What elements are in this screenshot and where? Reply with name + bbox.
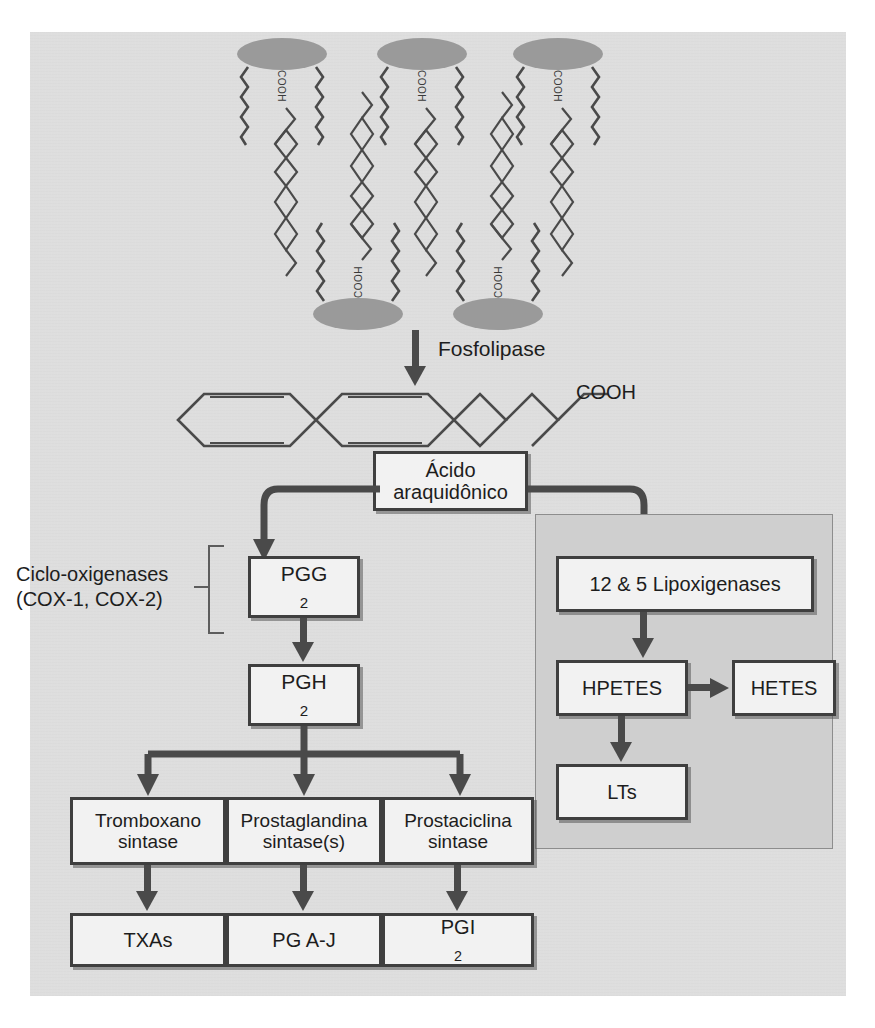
lox-to-hpetes-head: [632, 638, 654, 658]
arachidonic-acid-molecule: [150, 382, 620, 452]
phospholipase-label: Fosfolipase: [438, 336, 545, 362]
node-arachidonic-acid[interactable]: Ácido araquidônico: [373, 451, 528, 511]
prostacyclin-product-head: [446, 891, 468, 911]
arachidonic-acid-line2: araquidônico: [393, 481, 508, 503]
cyclooxygenase-label-line1: Ciclo-oxigenases: [16, 562, 168, 587]
node-lts[interactable]: LTs: [556, 764, 688, 820]
node-txas[interactable]: TXAs: [70, 913, 226, 967]
hpetes-to-lts-head: [610, 742, 632, 762]
pgg2-subscript: 2: [300, 594, 308, 611]
cyclooxygenase-bracket: [208, 545, 224, 634]
hpetes-to-hetes-stem: [688, 684, 712, 691]
phospholipid-membrane: COOH: [30, 32, 846, 372]
node-prostaglandin-synthase[interactable]: Prostaglandina sintase(s): [226, 797, 382, 865]
hpetes-label: HPETES: [582, 677, 662, 699]
thromboxane-line1: Tromboxano: [95, 810, 201, 831]
arachidonic-acid-cooh-label: COOH: [576, 380, 636, 405]
cyclooxygenase-bracket-tick: [194, 586, 210, 588]
prostaglandin-line2: sintase(s): [241, 831, 368, 852]
pgi2-text: PGI: [441, 916, 475, 938]
pgg2-to-pgh2-head: [292, 642, 314, 662]
node-pgi2[interactable]: PGI2: [382, 913, 534, 967]
prostaglandin-product-head: [292, 891, 314, 911]
hpetes-to-lts-stem: [618, 716, 625, 744]
prostacyclin-product-stem: [454, 865, 461, 893]
prostacyclin-line1: Prostaciclina: [404, 810, 512, 831]
thromboxane-product-stem: [144, 865, 151, 893]
node-thromboxane-synthase[interactable]: Tromboxano sintase: [70, 797, 226, 865]
thromboxane-line2: sintase: [95, 831, 201, 852]
node-lipoxygenases[interactable]: 12 & 5 Lipoxigenases: [556, 556, 814, 612]
lts-label: LTs: [607, 781, 637, 803]
cyclooxygenase-label: Ciclo-oxigenases (COX-1, COX-2): [16, 562, 168, 612]
node-pgh2[interactable]: PGH2: [248, 664, 360, 726]
node-prostacyclin-synthase[interactable]: Prostaciclina sintase: [382, 797, 534, 865]
prostacyclin-line2: sintase: [404, 831, 512, 852]
node-pg-aj[interactable]: PG A-J: [226, 913, 382, 967]
arachidonic-acid-line1: Ácido: [393, 459, 508, 481]
pgh2-subscript: 2: [300, 702, 308, 719]
hpetes-to-hetes-head: [710, 678, 729, 698]
prostaglandin-line1: Prostaglandina: [241, 810, 368, 831]
node-hetes[interactable]: HETES: [732, 660, 836, 716]
node-hpetes[interactable]: HPETES: [556, 660, 688, 716]
cyclooxygenase-label-line2: (COX-1, COX-2): [16, 587, 168, 612]
pgg2-to-pgh2-stem: [300, 618, 307, 644]
phospholipase-arrow-stem: [412, 330, 419, 368]
pgh2-text: PGH: [281, 670, 327, 694]
node-pgg2[interactable]: PGG2: [248, 556, 360, 618]
thromboxane-product-head: [136, 891, 158, 911]
pgh2-fanout-connector: [100, 726, 520, 806]
prostaglandin-product-stem: [300, 865, 307, 893]
pgi2-subscript: 2: [454, 948, 462, 964]
pathway-figure: COOH Fosfolipase COOH: [0, 0, 875, 1028]
txas-label: TXAs: [124, 929, 173, 951]
pgg2-text: PGG: [281, 562, 328, 586]
pg-aj-label: PG A-J: [272, 929, 335, 951]
hetes-label: HETES: [751, 677, 818, 699]
lox-to-hpetes-stem: [640, 612, 647, 640]
lipoxygenases-label: 12 & 5 Lipoxigenases: [589, 573, 780, 595]
